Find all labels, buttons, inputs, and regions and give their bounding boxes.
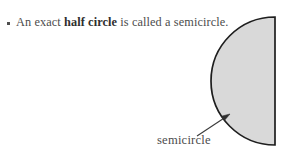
- semicircle-figure: [0, 0, 289, 159]
- figure-page: An exact half circle is called a semicir…: [0, 0, 289, 159]
- callout-label: semicircle: [157, 133, 211, 148]
- semicircle-shape: [211, 17, 275, 145]
